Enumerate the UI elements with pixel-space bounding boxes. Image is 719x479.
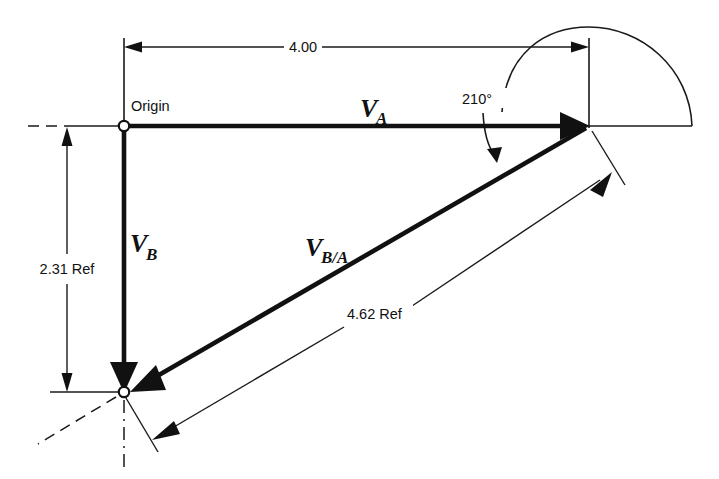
vector-vba-arrowhead <box>130 365 166 392</box>
dim-arrowhead-462-lower <box>152 421 180 440</box>
dim-arrowhead-down <box>62 373 73 392</box>
angle-leader-line <box>483 113 494 154</box>
dim-label-462: 4.62 Ref <box>347 306 403 322</box>
dim-line-462-upper <box>412 180 600 306</box>
origin-label: Origin <box>131 98 170 114</box>
dim-arrowhead-left <box>124 42 142 53</box>
dimension-horizontal-400: 4.00 <box>124 38 589 128</box>
node-lower <box>119 387 129 397</box>
lower-node-marker <box>119 387 129 397</box>
angle-leader-arrowhead <box>487 147 502 163</box>
dimension-diagonal-462: 4.62 Ref <box>126 131 625 452</box>
datum-dashed-lower-left <box>38 397 116 444</box>
dim-label-231: 2.31 Ref <box>40 261 96 277</box>
vector-va: V A <box>124 94 590 140</box>
vector-diagram: 4.00 210° V A <box>0 0 719 479</box>
vector-va-subscript: A <box>375 109 387 128</box>
arc-210-path <box>502 27 692 126</box>
datum-lower-node <box>38 397 124 468</box>
dim-line-462-lower <box>162 327 344 434</box>
vector-vb-subscript: B <box>145 245 157 264</box>
dim-label-400: 4.00 <box>289 39 317 55</box>
vector-vba: V B/A <box>130 128 586 392</box>
angle-label-210: 210° <box>462 91 492 107</box>
dim-arrowhead-right <box>571 42 589 53</box>
vector-vba-shaft <box>152 128 586 379</box>
vector-vba-subscript: B/A <box>320 248 348 267</box>
diagram-canvas: 4.00 210° V A <box>0 0 719 479</box>
extension-line-462-lower <box>126 398 158 452</box>
dimension-vertical-231: 2.31 Ref <box>40 127 118 392</box>
vector-vb: V B <box>110 126 157 393</box>
origin-marker <box>119 121 129 131</box>
dim-arrowhead-up <box>62 127 73 146</box>
